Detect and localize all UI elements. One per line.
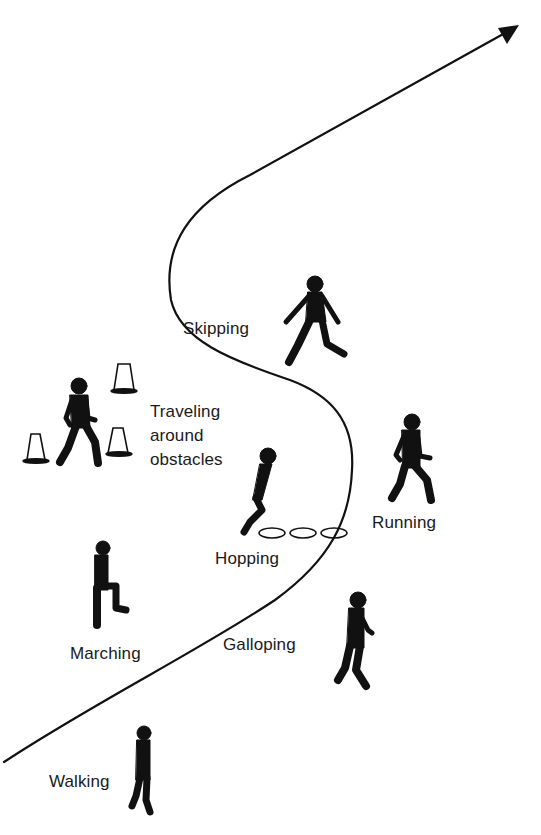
hopping-child-icon	[244, 448, 276, 532]
cone-icon	[106, 428, 132, 456]
label-walking: Walking	[49, 771, 110, 792]
marching-child-icon	[95, 541, 126, 625]
label-hopping: Hopping	[215, 548, 279, 569]
label-galloping: Galloping	[223, 634, 296, 655]
label-traveling-around-obstacles: Traveling around obstacles	[150, 400, 223, 472]
cone-icon	[23, 434, 49, 463]
galloping-child-icon	[338, 592, 372, 686]
running-child-icon	[392, 414, 431, 500]
hoop-ring-icon	[290, 528, 316, 538]
skipping-child-icon	[286, 276, 344, 362]
hoop-ring-icon	[259, 528, 285, 538]
locomotor-progression-diagram: Skipping Traveling around obstacles Runn…	[0, 0, 541, 835]
label-skipping: Skipping	[183, 318, 249, 339]
cone-icon	[111, 364, 137, 393]
label-running: Running	[372, 512, 436, 533]
traveling-child-icon	[60, 378, 98, 463]
label-marching: Marching	[70, 643, 141, 664]
walking-child-icon	[132, 726, 151, 812]
